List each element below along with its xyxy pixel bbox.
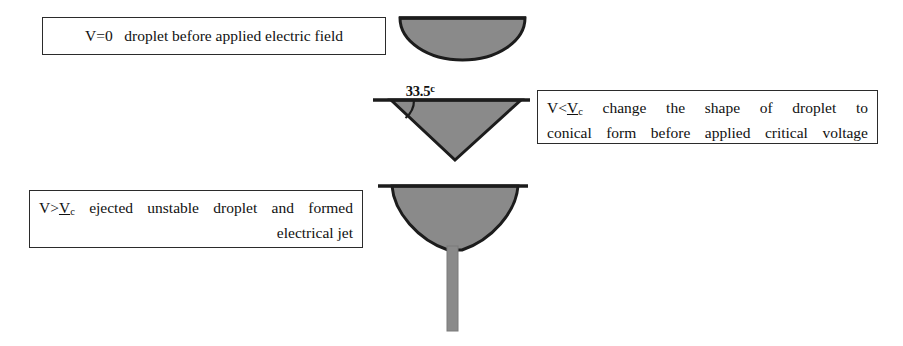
figure-canvas: 33.5c V=0 droplet before applied electri…	[0, 0, 903, 346]
caption-stage-2-line-b: conical form before applied critical vol…	[547, 121, 868, 145]
stage-1-shape-group	[399, 18, 526, 60]
caption-box-stage-1: V=0 droplet before applied electric fiel…	[42, 17, 386, 55]
caption-stage-3-condition-prefix: V>	[39, 199, 59, 216]
caption-stage-2-condition-prefix: V<	[547, 99, 567, 116]
caption-box-stage-3: V>Vc ejected unstable droplet and formed…	[29, 190, 363, 248]
caption-stage-3-line-a: V>Vc ejected unstable droplet and formed	[39, 196, 353, 221]
caption-stage-2-v-symbol: V	[567, 99, 578, 116]
angle-label: 33.5c	[392, 66, 435, 117]
caption-stage-3-v-symbol: V	[59, 199, 70, 216]
taylor-cone-shape	[392, 186, 518, 250]
caption-stage-2-line-a-text: change the shape of droplet to	[583, 99, 868, 116]
caption-stage-3-line-a-text: ejected unstable droplet and formed	[75, 199, 353, 216]
caption-box-stage-2: V<Vc change the shape of droplet to coni…	[537, 90, 878, 144]
caption-stage-1-text: V=0 droplet before applied electric fiel…	[85, 24, 343, 48]
electrical-jet-shape	[447, 246, 458, 331]
caption-stage-3-line-b: electrical jet	[39, 221, 353, 245]
angle-unit-glyph: c	[430, 83, 434, 94]
caption-stage-3-critical-voltage-symbol: Vc	[59, 199, 75, 216]
angle-value: 33.5	[406, 83, 431, 99]
caption-stage-2-line-a: V<Vc change the shape of droplet to	[547, 96, 868, 121]
caption-stage-2-critical-voltage-symbol: Vc	[567, 99, 583, 116]
stage-3-shape-group	[378, 186, 528, 331]
hemispherical-droplet-shape	[400, 18, 525, 60]
